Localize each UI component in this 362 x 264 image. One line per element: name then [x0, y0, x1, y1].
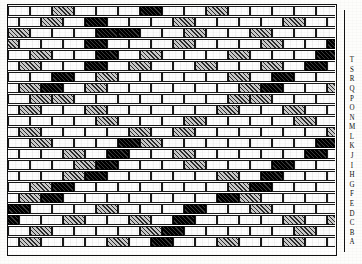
brick-plain [30, 28, 52, 38]
brick-grey [184, 160, 206, 170]
brick-dark [85, 17, 107, 27]
brick-dark [41, 83, 63, 93]
brick-plain [261, 149, 283, 159]
brick-plain [283, 83, 305, 93]
brick-grey [129, 215, 151, 225]
brick-plain [118, 182, 140, 192]
brick-plain [8, 6, 30, 16]
brick-dark [85, 39, 107, 49]
brick-grey [184, 28, 206, 38]
brick-grey [250, 94, 272, 104]
brick-dark [8, 215, 19, 225]
brick-dark [327, 39, 335, 49]
brick-plain [195, 193, 217, 203]
brick-plain [151, 105, 173, 115]
brick-grey [8, 28, 30, 38]
brick-plain [162, 28, 184, 38]
brick-plain [129, 39, 151, 49]
brick-plain [8, 72, 30, 82]
brick-plain [74, 204, 96, 214]
brick-plain [8, 127, 19, 137]
brick-plain [107, 215, 129, 225]
brick-plain [41, 105, 63, 115]
brick-grey [228, 50, 250, 60]
brick-dark [8, 204, 30, 214]
brick-plain [272, 94, 294, 104]
brick-plain [184, 50, 206, 60]
brick-plain [96, 6, 118, 16]
brick-plain [140, 160, 162, 170]
brick-plain [228, 28, 250, 38]
brick-grey [63, 171, 85, 181]
brick-plain [52, 50, 74, 60]
brick-plain [217, 39, 239, 49]
brick-plain [250, 160, 272, 170]
brick-plain [19, 39, 41, 49]
brick-plain [239, 171, 261, 181]
brick-plain [118, 204, 140, 214]
brick-plain [173, 83, 195, 93]
brick-plain [294, 138, 316, 148]
brick-grey [30, 226, 52, 236]
brick-plain [206, 182, 228, 192]
brick-plain [272, 116, 294, 126]
brick-plain [294, 50, 316, 60]
brick-plain [96, 226, 118, 236]
brick-plain [85, 215, 107, 225]
brick-plain [30, 72, 52, 82]
brick-plain [140, 72, 162, 82]
brick-plain [206, 28, 228, 38]
brick-plain [316, 226, 335, 236]
brick-plain [250, 50, 272, 60]
brick-plain [261, 237, 283, 247]
brick-dark [305, 149, 327, 159]
brick-plain [195, 149, 217, 159]
brick-plain [162, 94, 184, 104]
brick-plain [327, 61, 335, 71]
brick-plain [195, 127, 217, 137]
brick-plain [151, 149, 173, 159]
brick-dark [52, 72, 74, 82]
brick-dark [85, 171, 107, 181]
brick-grey [228, 182, 250, 192]
brick-dark [41, 193, 63, 203]
frame-rule-bottom [7, 255, 337, 256]
brick-plain [63, 193, 85, 203]
brick-plain [195, 83, 217, 93]
brick-plain [129, 149, 151, 159]
course-label-column: ABCDEFGHIJKLMNOPQRST [345, 48, 359, 248]
brick-elevation-plate: ABCDEFGHIJKLMNOPQRST [0, 0, 362, 264]
brick-grey [250, 204, 272, 214]
brick-plain [52, 138, 74, 148]
brick-plain [162, 160, 184, 170]
course-label: I [351, 161, 353, 172]
brick-plain [228, 160, 250, 170]
brick-plain [305, 237, 327, 247]
brick-plain [316, 204, 335, 214]
brick-grey [217, 105, 239, 115]
brick-grey [41, 17, 63, 27]
brick-grey [96, 72, 118, 82]
brick-grey [206, 6, 228, 16]
brick-plain [305, 105, 327, 115]
brick-dark [96, 50, 118, 60]
brick-plain [305, 193, 327, 203]
course-label: N [349, 113, 354, 124]
brick-grey [261, 39, 283, 49]
brick-plain [41, 215, 63, 225]
brick-plain [74, 138, 96, 148]
brick-plain [85, 127, 107, 137]
brick-plain [63, 105, 85, 115]
brick-plain [107, 171, 129, 181]
brick-plain [8, 138, 30, 148]
brick-plain [206, 50, 228, 60]
brick-plain [30, 160, 52, 170]
brick-plain [19, 149, 41, 159]
brick-plain [272, 6, 294, 16]
brick-plain [250, 72, 272, 82]
brick-plain [206, 72, 228, 82]
brick-grey [19, 193, 41, 203]
brick-plain [41, 149, 63, 159]
brick-grey [19, 105, 41, 115]
brick-plain [261, 127, 283, 137]
